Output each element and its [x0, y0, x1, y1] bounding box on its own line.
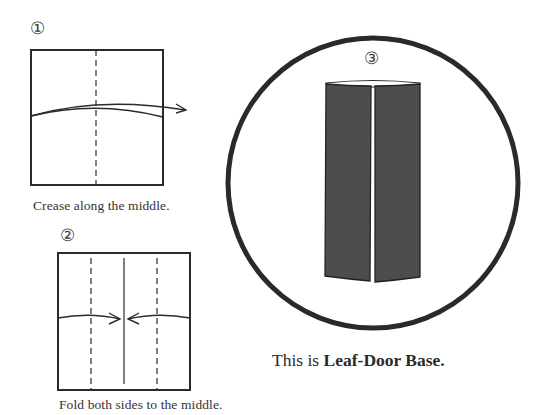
left-door-panel: [325, 84, 371, 281]
step2-caption: Fold both sides to the middle.: [59, 397, 223, 413]
result-caption: This is Leaf-Door Base.: [272, 350, 445, 371]
base-name: Leaf-Door Base.: [324, 350, 445, 370]
arrow-left-icon: [128, 315, 190, 319]
step1-number: ①: [30, 18, 45, 39]
step1-caption: Crease along the middle.: [33, 198, 170, 214]
paper-square: [31, 50, 163, 185]
step2-diagram: [58, 253, 190, 390]
result-prefix: This is: [272, 350, 324, 370]
step2-number: ②: [60, 225, 75, 246]
right-door-panel: [375, 84, 420, 282]
step3-number: ③: [364, 48, 379, 69]
step3-diagram: [228, 38, 518, 328]
step1-diagram: [31, 50, 186, 185]
fold-curve-lower: [31, 108, 163, 117]
arrow-right-icon: [58, 315, 120, 319]
fold-arrow-icon: [31, 104, 185, 116]
